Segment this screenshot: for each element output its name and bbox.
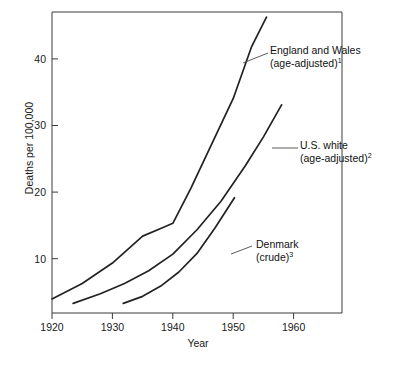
series-label-denmark-footnote: 3 bbox=[289, 251, 293, 258]
series-label-england-line2: (age-adjusted)1 bbox=[270, 57, 361, 70]
series-label-us-line2: (age-adjusted)2 bbox=[300, 152, 372, 165]
series-label-denmark-line2: (crude)3 bbox=[256, 251, 299, 264]
xtick-label-1940: 1940 bbox=[153, 322, 193, 333]
ytick-label-40: 40 bbox=[22, 54, 46, 65]
leader-line-denmark bbox=[231, 246, 252, 254]
series-label-england-line1: England and Wales bbox=[270, 44, 361, 57]
series-label-us-white: U.S. white (age-adjusted)2 bbox=[300, 139, 372, 166]
xtick-label-1930: 1930 bbox=[92, 322, 132, 333]
series-label-us-footnote: 2 bbox=[368, 152, 372, 159]
xtick-label-1960: 1960 bbox=[274, 322, 314, 333]
series-label-us-line2-text: (age-adjusted) bbox=[300, 152, 368, 164]
series-label-us-line1: U.S. white bbox=[300, 139, 372, 152]
series-label-denmark-line1: Denmark bbox=[256, 238, 299, 251]
y-axis-title: Deaths per 100,000 bbox=[23, 73, 35, 223]
ytick-label-10: 10 bbox=[22, 254, 46, 265]
series-label-denmark: Denmark (crude)3 bbox=[256, 238, 299, 265]
series-label-denmark-line2-text: (crude) bbox=[256, 251, 289, 263]
series-label-england-line2-text: (age-adjusted) bbox=[270, 57, 338, 69]
x-axis-title: Year bbox=[0, 337, 396, 349]
chart-figure: 10 20 30 40 1920 1930 1940 1950 1960 Dea… bbox=[0, 0, 396, 365]
xtick-label-1950: 1950 bbox=[213, 322, 253, 333]
series-line-england-and-wales bbox=[52, 17, 266, 299]
series-label-england-and-wales: England and Wales (age-adjusted)1 bbox=[270, 44, 361, 71]
xtick-label-1920: 1920 bbox=[32, 322, 72, 333]
series-line-denmark bbox=[123, 198, 234, 304]
series-label-england-footnote: 1 bbox=[338, 57, 342, 64]
